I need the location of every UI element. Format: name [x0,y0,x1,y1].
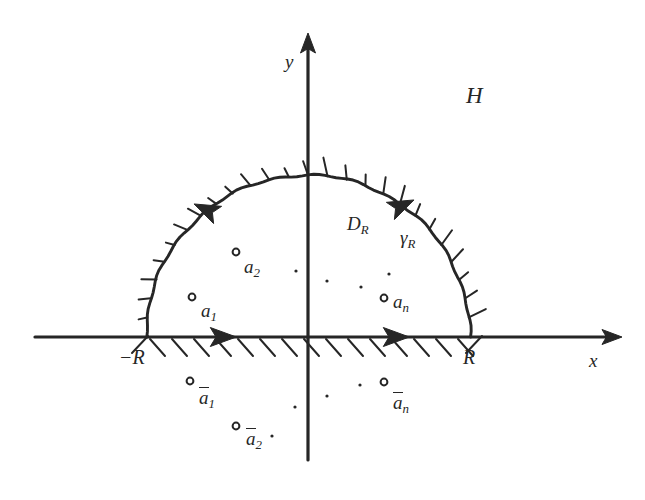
arc-hatch-tick [139,298,151,299]
pole-marker-anbar [381,379,388,386]
pole-label-subscript-a2: 2 [254,265,260,280]
complex-analysis-contour-figure: H y x DR γR −R R a1a2ana1a2an [0,0,645,500]
ellipsis-dot-lower-3 [270,434,273,437]
arc-hatch-tick [465,291,477,299]
domain-label-base: D [347,213,361,234]
ellipsis-dot-upper-0 [294,269,297,272]
pole-marker-an [381,295,388,302]
axis-hatch-tick [150,339,165,356]
pole-label-base-wrap-an: a [393,292,403,311]
pole-label-subscript-a1bar: 1 [209,396,215,411]
pole-label-base-anbar: a [393,392,403,413]
axis-hatch-tick [436,339,451,356]
pole-label-base-a2: a [244,256,254,277]
arc-hatch-tick [285,168,289,176]
pole-label-a1bar: a1 [199,388,215,411]
ellipsis-dot-upper-2 [359,285,362,288]
pole-marker-a2bar [233,423,240,430]
domain-label-subscript: R [361,222,369,237]
x-axis-label: x [589,351,597,370]
diagram-canvas [0,0,645,500]
domain-label: DR [347,214,369,237]
arc-hatch-tick [383,177,385,193]
arc-contour-label-subscript: R [408,236,416,251]
axis-hatch-tick [260,339,275,356]
arc-contour-label-base: γ [400,227,408,248]
pole-label-base-a1: a [201,300,211,321]
axis-hatch-tick [172,339,187,356]
right-endpoint-label: R [463,347,475,367]
axis-hatch-tick [326,339,341,356]
pole-label-a1: a1 [201,301,217,324]
axis-hatch-tick [194,339,209,356]
y-axis-label: y [285,52,293,71]
pole-label-subscript-a1: 1 [211,309,217,324]
arc-hatch-tick [441,230,452,245]
pole-label-subscript-a2bar: 2 [256,437,262,452]
arc-hatch-tick [429,219,435,230]
arc-hatch-tick [225,187,232,194]
ellipsis-dot-lower-0 [293,405,296,408]
arc-hatch-tick [469,309,486,317]
pole-label-base-a2bar: a [246,428,256,449]
pole-label-subscript-anbar: n [403,401,409,416]
arc-hatch-tick [154,260,165,262]
arc-hatch-tick [323,158,327,177]
direction-arrows-group [194,200,414,347]
arc-hatch-tick [208,198,216,204]
arc-hatch-tick [262,169,269,180]
pole-label-base-wrap-a1bar: a [199,388,209,407]
arc-hatch-tick [174,224,187,229]
arc-arrow-right [386,200,414,220]
pole-marker-a2 [233,249,240,256]
axis-hatch-tick [238,339,253,356]
pole-label-base-wrap-a2bar: a [246,429,256,448]
conjugate-overbar-a2bar [246,428,256,429]
axis-hatch-tick [304,339,319,356]
arc-contour-label: γR [400,228,415,251]
pole-label-base-wrap-a1: a [201,301,211,320]
pole-label-base-wrap-anbar: a [393,393,403,412]
ellipsis-dot-upper-3 [387,272,390,275]
pole-label-an: an [393,292,409,315]
arc-hatch-tick [451,249,463,261]
ellipsis-dot-lower-2 [358,383,361,386]
pole-label-subscript-an: n [403,300,409,315]
arc-hatch-tick [241,174,251,185]
axis-hatch-tick [282,339,297,356]
axis-hatch-tick [370,339,385,356]
pole-marker-a1bar [187,378,194,385]
arc-hatch-tick [188,209,201,216]
arc-hatch-tick [166,243,175,245]
pole-label-a2bar: a2 [246,429,262,452]
axis-hatch-tick [414,339,429,356]
pole-label-base-wrap-a2: a [244,257,254,276]
pole-label-base-a1bar: a [199,387,209,408]
conjugate-overbar-anbar [393,392,403,393]
pole-label-base-an: a [393,291,403,312]
arc-hatch-tick [459,272,468,279]
axis-hatch-tick [348,339,363,356]
ellipsis-dot-upper-1 [325,279,328,282]
conjugate-overbar-a1bar [199,387,209,388]
arc-hatch-tick [345,165,346,179]
pole-label-a2: a2 [244,257,260,280]
pole-marker-a1 [189,294,196,301]
ellipsis-dot-lower-1 [325,394,328,397]
half-plane-label: H [466,84,483,107]
left-endpoint-label: −R [119,347,145,367]
pole-label-anbar: an [393,393,409,416]
ellipsis-dots-group [270,269,390,437]
arc-hatch-tick [415,204,420,216]
